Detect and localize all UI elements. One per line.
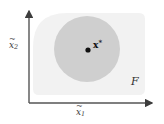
figure-container: ~ x 2 ~ x 1 F x* — [0, 0, 164, 124]
optimum-label-superscript: * — [98, 38, 102, 47]
feasible-region-label: F — [131, 76, 139, 87]
x-axis-label-sub: 1 — [81, 110, 85, 118]
feasible-region-label-text: F — [131, 75, 139, 88]
y-axis-label-sub: 2 — [14, 43, 18, 51]
optimum-point-marker — [85, 47, 90, 52]
x-axis-label: ~ x 1 — [76, 108, 85, 118]
y-axis-label: ~ x 2 — [9, 41, 18, 51]
optimum-point-label: x* — [93, 39, 102, 50]
